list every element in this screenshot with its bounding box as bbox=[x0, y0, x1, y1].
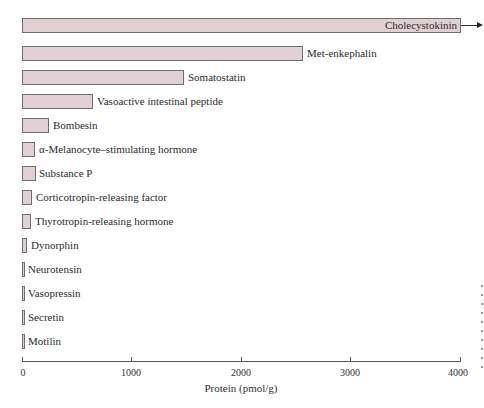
label-bombesin: Bombesin bbox=[53, 118, 98, 133]
label-secretin: Secretin bbox=[28, 310, 64, 325]
label-somatostatin: Somatostatin bbox=[188, 70, 245, 85]
label-met-enkephalin: Met-enkephalin bbox=[307, 46, 377, 61]
x-tick-label-3000: 3000 bbox=[340, 367, 360, 378]
x-tick-0 bbox=[22, 357, 23, 362]
bar-thyrotropin-releasing-hormone bbox=[22, 214, 31, 229]
bar-dynorphin bbox=[22, 238, 27, 253]
x-tick-3000 bbox=[350, 357, 351, 362]
label-motilin: Motilin bbox=[28, 334, 61, 349]
x-tick-label-0: 0 bbox=[21, 367, 26, 378]
x-axis-title: Protein (pmol/g) bbox=[204, 382, 277, 394]
label-cholecystokinin: Cholecystokinin bbox=[362, 18, 457, 33]
bar-bombesin bbox=[22, 118, 49, 133]
bar-corticotropin-releasing-factor bbox=[22, 190, 32, 205]
x-tick-label-4000: 4000 bbox=[448, 367, 468, 378]
bar-neurotensin bbox=[22, 262, 25, 277]
x-tick-4000 bbox=[460, 357, 461, 362]
label-vasoactive-intestinal-peptide: Vasoactive intestinal peptide bbox=[97, 94, 223, 109]
label-neurotensin: Neurotensin bbox=[28, 262, 82, 277]
x-tick-2000 bbox=[241, 357, 242, 362]
bar-vasopressin bbox=[22, 286, 25, 301]
x-tick-label-2000: 2000 bbox=[231, 367, 251, 378]
bar-vasoactive-intestinal-peptide bbox=[22, 94, 93, 109]
label-dynorphin: Dynorphin bbox=[31, 238, 79, 253]
bar-secretin bbox=[22, 310, 25, 325]
bar-met-enkephalin bbox=[22, 46, 303, 61]
label-substance-p: Substance P bbox=[39, 166, 92, 181]
label-thyrotropin-releasing-hormone: Thyrotropin-releasing hormone bbox=[35, 214, 173, 229]
label-alpha-msh: α-Melanocyte–stimulating hormone bbox=[39, 142, 197, 157]
x-tick-1000 bbox=[131, 357, 132, 362]
x-tick-label-1000: 1000 bbox=[121, 367, 141, 378]
label-corticotropin-releasing-factor: Corticotropin-releasing factor bbox=[36, 190, 167, 205]
bar-somatostatin bbox=[22, 70, 184, 85]
arrow-right-icon bbox=[477, 22, 483, 28]
bar-motilin bbox=[22, 334, 25, 349]
overflow-arrow-line bbox=[461, 25, 478, 26]
bar-substance-p bbox=[22, 166, 36, 181]
cropped-edge-text bbox=[480, 285, 484, 385]
bar-alpha-msh bbox=[22, 142, 35, 157]
label-vasopressin: Vasopressin bbox=[28, 286, 81, 301]
